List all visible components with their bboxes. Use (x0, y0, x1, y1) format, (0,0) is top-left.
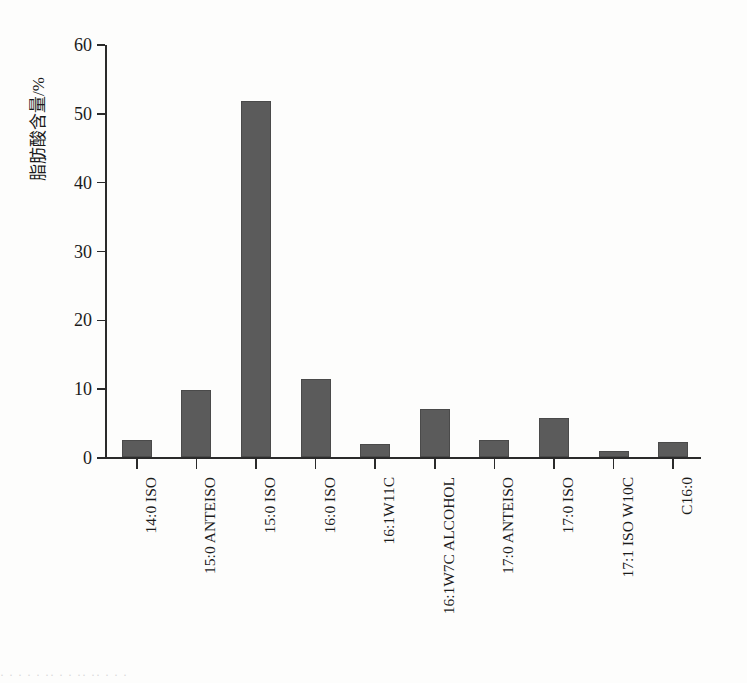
plot-area: 0102030405060 14:0 ISO15:0 ANTEISO15:0 I… (105, 45, 701, 458)
y-tick-mark (97, 113, 105, 115)
bar (241, 101, 271, 457)
scan-artifact: · · · · · ·· · · ·· ·· · · · (0, 668, 747, 683)
x-tick-label: 15:0 ANTEISO (202, 477, 218, 574)
y-axis-label: 脂肪酸含量/% (24, 54, 50, 204)
y-tick-label: 60 (74, 36, 92, 54)
y-tick-label: 30 (74, 243, 92, 261)
bar (122, 440, 152, 457)
bar (301, 379, 331, 457)
bar (658, 442, 688, 457)
x-axis-line (105, 457, 701, 459)
x-tick-mark (136, 458, 138, 469)
y-axis-line (105, 45, 107, 458)
bar (539, 418, 569, 457)
x-tick-label: 17:1 ISO W10C (620, 477, 636, 577)
x-tick-mark (255, 458, 257, 469)
x-tick-mark (315, 458, 317, 469)
x-tick-label: 16:1W11C (381, 477, 397, 544)
bar (599, 451, 629, 457)
y-tick-label: 40 (74, 174, 92, 192)
x-tick-mark (494, 458, 496, 469)
y-tick-mark (97, 182, 105, 184)
y-tick-label: 10 (74, 380, 92, 398)
y-tick-label: 0 (83, 449, 92, 467)
x-tick-label: 15:0 ISO (262, 477, 278, 533)
x-tick-label: 17:0 ISO (560, 477, 576, 533)
bar (360, 444, 390, 457)
y-tick-mark (97, 44, 105, 46)
y-tick-mark (97, 251, 105, 253)
x-tick-mark (672, 458, 674, 469)
y-tick-mark (97, 388, 105, 390)
x-tick-label: 14:0 ISO (143, 477, 159, 533)
y-tick-label: 20 (74, 311, 92, 329)
y-tick-label: 50 (74, 105, 92, 123)
y-tick-mark (97, 320, 105, 322)
bar-chart-figure: 脂肪酸含量/% 0102030405060 14:0 ISO15:0 ANTEI… (0, 0, 747, 683)
x-tick-mark (196, 458, 198, 469)
x-tick-mark (374, 458, 376, 469)
bar (479, 440, 509, 457)
x-tick-mark (613, 458, 615, 469)
x-tick-label: 17:0 ANTEISO (500, 477, 516, 574)
x-tick-label: 16:0 ISO (322, 477, 338, 533)
x-tick-mark (553, 458, 555, 469)
bar (420, 409, 450, 457)
x-tick-mark (434, 458, 436, 469)
x-tick-label: 16:1W7C ALCOHOL (441, 477, 457, 614)
x-tick-label: C16:0 (679, 477, 695, 515)
y-tick-mark (97, 457, 105, 459)
bar (181, 390, 211, 457)
